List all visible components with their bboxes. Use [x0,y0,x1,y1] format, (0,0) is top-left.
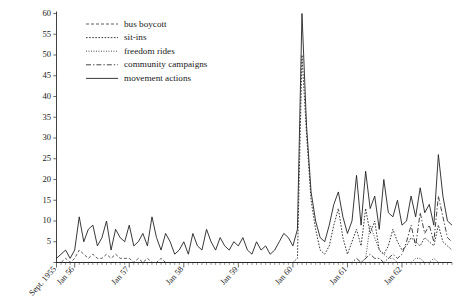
y-axis: 51015202530354045505560 [42,8,56,263]
x-tick-label: Jan 56 [55,265,76,287]
y-tick-label: 50 [42,49,51,59]
x-tick-label: Jan 60 [273,265,294,287]
y-tick-label: 55 [42,29,51,39]
legend-label-sit-ins: sit-ins [124,32,147,42]
y-tick-label: 30 [42,132,51,142]
x-axis: Sept. 1955Jan 56Jan 57Jan 58Jan 59Jan 60… [27,263,452,298]
series-line-movement-actions [57,14,453,259]
y-tick-label: 10 [42,215,51,225]
y-tick-label: 25 [42,153,51,163]
x-tick-label: Jan 58 [164,265,185,287]
series-line-sit-ins [57,55,453,263]
chart-figure: 51015202530354045505560 Sept. 1955Jan 56… [0,0,465,306]
series-line-freedom-rides [57,225,453,262]
legend-label-bus-boycott: bus boycott [124,19,167,29]
legend-label-freedom-rides: freedom rides [124,46,175,56]
series-container [57,14,453,263]
x-tick-label: Jan 62 [382,265,403,287]
y-tick-label: 20 [42,174,51,184]
x-tick-label: Jan 59 [219,265,240,287]
y-tick-label: 15 [42,195,51,205]
y-tick-label: 5 [47,236,51,246]
y-tick-label: 40 [42,91,51,101]
y-tick-label: 35 [42,112,51,122]
x-tick-label: Jan 61 [328,265,349,287]
series-line-bus-boycott [57,250,453,262]
legend-label-movement-actions: movement actions [124,73,192,83]
y-tick-label: 60 [42,8,51,18]
x-tick-label: Jan 57 [110,265,131,287]
line-chart-plot: 51015202530354045505560 Sept. 1955Jan 56… [0,0,465,306]
x-tick-label: Sept. 1955 [27,265,58,298]
legend-label-community-campaigns: community campaigns [124,59,208,69]
chart-legend: bus boycottsit-insfreedom ridescommunity… [86,19,208,83]
y-tick-label: 45 [42,70,51,80]
